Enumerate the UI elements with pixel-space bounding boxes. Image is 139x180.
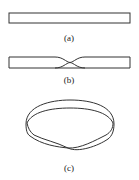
mobius-figure xyxy=(0,0,139,180)
panel-label-b: (b) xyxy=(54,75,84,85)
panel-label-a: (a) xyxy=(54,33,84,43)
mobius-band xyxy=(26,100,114,150)
flat-strip xyxy=(9,13,130,23)
twisted-strip xyxy=(9,57,130,68)
panel-label-c: (c) xyxy=(54,163,84,173)
